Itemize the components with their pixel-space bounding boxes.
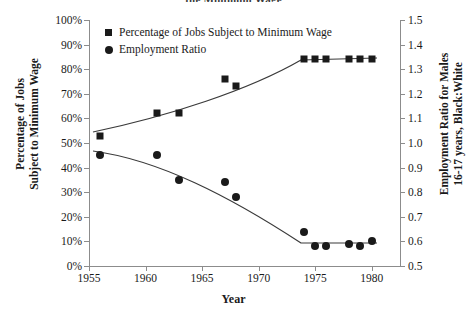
- chart-legend: Percentage of Jobs Subject to Minimum Wa…: [105, 24, 332, 58]
- x-axis-tick: [259, 266, 260, 271]
- y-axis-left-tick-label: 30%: [61, 186, 82, 198]
- y-axis-right-tick-label: 1.3: [408, 63, 422, 75]
- x-axis-tick-label: 1980: [360, 272, 383, 284]
- x-axis-tick-label: 1965: [191, 272, 214, 284]
- chart-figure: the Minimum Wage Percentage of Jobs Subj…: [0, 0, 467, 315]
- legend-label-percentage-jobs: Percentage of Jobs Subject to Minimum Wa…: [119, 24, 332, 41]
- data-point-square: [233, 83, 240, 90]
- y-axis-left-tick-label: 40%: [61, 162, 82, 174]
- data-point-square: [368, 56, 375, 63]
- y-axis-right-tick-label: 1.1: [408, 112, 422, 124]
- data-point-square: [153, 110, 160, 117]
- y-axis-right-tick-label: 0.9: [408, 162, 422, 174]
- legend-label-employment-ratio: Employment Ratio: [119, 41, 206, 58]
- y-axis-left-tick-label: 100%: [55, 14, 82, 26]
- data-point-circle: [368, 237, 376, 245]
- legend-square-marker-icon: [105, 29, 112, 36]
- y-axis-right-tick: [400, 266, 405, 267]
- data-point-square: [97, 132, 104, 139]
- data-point-circle: [345, 240, 353, 248]
- legend-item-employment-ratio[interactable]: Employment Ratio: [105, 41, 332, 58]
- x-axis-tick: [202, 266, 203, 271]
- x-axis-tick: [315, 266, 316, 271]
- data-point-circle: [96, 151, 104, 159]
- data-point-circle: [232, 193, 240, 201]
- y-axis-right-title: Employment Ratio for Males 16-17 years, …: [437, 29, 465, 219]
- x-axis-tick: [372, 266, 373, 271]
- chart-title-clipped: the Minimum Wage: [0, 0, 467, 2]
- y-axis-left-tick-label: 60%: [61, 112, 82, 124]
- y-axis-right-tick: [400, 69, 405, 70]
- x-axis-tick-label: 1955: [78, 272, 101, 284]
- data-point-circle: [153, 151, 161, 159]
- x-axis-title: Year: [0, 292, 467, 307]
- y-axis-right-title-line2: 16-17 years, Black:White: [451, 29, 465, 219]
- y-axis-left-tick-label: 70%: [61, 88, 82, 100]
- y-axis-right-title-line1: Employment Ratio for Males: [437, 29, 451, 219]
- y-axis-right-tick: [400, 118, 405, 119]
- y-axis-right-tick-label: 0.7: [408, 211, 422, 223]
- y-axis-left-tick-label: 90%: [61, 39, 82, 51]
- data-point-circle: [175, 176, 183, 184]
- x-axis-tick-label: 1970: [247, 272, 270, 284]
- data-point-square: [357, 56, 364, 63]
- x-axis-tick: [89, 266, 90, 271]
- x-axis-tick-label: 1975: [304, 272, 327, 284]
- data-point-circle: [300, 228, 308, 236]
- y-axis-left-tick-label: 80%: [61, 63, 82, 75]
- data-point-circle: [322, 242, 330, 250]
- y-axis-right-tick-label: 0.8: [408, 186, 422, 198]
- y-axis-right-tick: [400, 192, 405, 193]
- y-axis-right-tick: [400, 168, 405, 169]
- y-axis-left-title-line2: Subject to Minimum Wage: [27, 39, 41, 209]
- y-axis-right-tick-label: 1.5: [408, 14, 422, 26]
- x-axis-tick-label: 1960: [134, 272, 157, 284]
- y-axis-right-tick-label: 1.2: [408, 88, 422, 100]
- data-point-circle: [221, 178, 229, 186]
- y-axis-left-title: Percentage of Jobs Subject to Minimum Wa…: [13, 39, 41, 209]
- data-point-circle: [356, 242, 364, 250]
- data-point-circle: [311, 242, 319, 250]
- x-axis-tick: [146, 266, 147, 271]
- y-axis-left-tick-label: 50%: [61, 137, 82, 149]
- y-axis-left-tick-label: 10%: [61, 235, 82, 247]
- y-axis-right-tick: [400, 217, 405, 218]
- x-axis-line: [89, 266, 400, 267]
- y-axis-right-tick-label: 1.4: [408, 39, 422, 51]
- y-axis-left-title-line1: Percentage of Jobs: [13, 39, 27, 209]
- data-point-square: [176, 110, 183, 117]
- data-point-square: [221, 76, 228, 83]
- y-axis-right-tick-label: 0.6: [408, 235, 422, 247]
- y-axis-right-tick-label: 1.0: [408, 137, 422, 149]
- y-axis-left-tick-label: 0%: [67, 260, 82, 272]
- trendline-percentage-jobs: [93, 58, 377, 132]
- legend-item-percentage-jobs[interactable]: Percentage of Jobs Subject to Minimum Wa…: [105, 24, 332, 41]
- y-axis-right-tick: [400, 20, 405, 21]
- y-axis-left-tick-label: 20%: [61, 211, 82, 223]
- y-axis-right-tick-label: 0.5: [408, 260, 422, 272]
- y-axis-right-tick: [400, 241, 405, 242]
- y-axis-right-tick: [400, 45, 405, 46]
- y-axis-right-tick: [400, 94, 405, 95]
- data-point-square: [346, 56, 353, 63]
- y-axis-right-tick: [400, 143, 405, 144]
- legend-circle-marker-icon: [105, 46, 113, 54]
